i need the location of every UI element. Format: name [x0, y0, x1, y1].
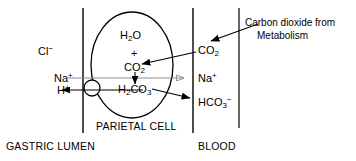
co2-blood-base: CO: [198, 44, 215, 56]
label-chloride: Cl−: [38, 45, 53, 57]
label-hydrogen-lumen: H+: [57, 84, 70, 96]
water-base: H: [120, 29, 128, 41]
sodium-blood-base: Na: [198, 72, 212, 84]
bicarbonate-charge: −: [227, 95, 232, 104]
label-parietal-cell: PARIETAL CELL: [96, 121, 177, 132]
label-water: H2O: [120, 30, 141, 43]
label-sodium-blood: Na+: [198, 72, 217, 84]
label-carbon-dioxide-cell: CO2: [124, 62, 145, 75]
sodium-blood-charge: +: [212, 71, 217, 80]
carbonic-acid-h: H: [118, 83, 126, 95]
diagram-canvas: Cl− Na+ H+ H2O + CO2 H2CO3 CO2 Na+ HCO3−…: [0, 0, 356, 161]
bicarbonate-efflux-arrow: [152, 89, 190, 98]
label-carbonic-acid: H2CO3: [118, 84, 151, 97]
annotation-line-1: Carbon dioxide from: [245, 17, 335, 30]
label-blood: BLOOD: [198, 141, 236, 152]
label-bicarbonate-blood: HCO3−: [198, 96, 232, 110]
annotation-line-2: Metabolism: [245, 30, 335, 43]
hydrogen-lumen-charge: +: [65, 83, 70, 92]
water-tail: O: [132, 29, 141, 41]
chloride-base: Cl: [38, 45, 48, 57]
hydrogen-lumen-base: H: [57, 84, 65, 96]
label-plus-operator: +: [131, 48, 137, 59]
co2-blood-subscript: 2: [215, 49, 219, 58]
bicarbonate-base: HCO: [198, 96, 222, 108]
carbonic-acid-sub2: 3: [147, 88, 151, 97]
label-carbon-dioxide-blood: CO2: [198, 45, 219, 58]
co2-cell-subscript: 2: [141, 66, 145, 75]
annotation-carbon-dioxide-source: Carbon dioxide from Metabolism: [245, 17, 335, 42]
chloride-charge: −: [48, 44, 53, 53]
carbonic-acid-co: CO: [130, 83, 147, 95]
co2-influx-arrow: [142, 52, 196, 64]
sodium-lumen-charge: +: [68, 71, 73, 80]
label-gastric-lumen: GASTRIC LUMEN: [6, 141, 95, 152]
proton-pump-icon: [84, 80, 100, 96]
co2-cell-base: CO: [124, 61, 141, 73]
